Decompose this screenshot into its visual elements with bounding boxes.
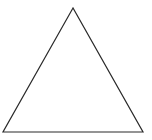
triangle-shape <box>3 8 143 132</box>
triangle-figure <box>0 0 152 140</box>
diagram-canvas <box>0 0 152 140</box>
